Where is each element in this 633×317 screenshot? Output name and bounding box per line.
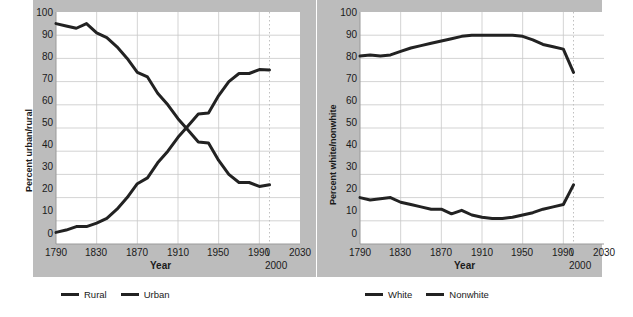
x-tick-1790-right: 1790: [343, 247, 377, 258]
x-axis-label-right: Year: [454, 260, 475, 271]
x-tick-2030-right: 2030: [587, 247, 621, 258]
y-tick-0-left: 0: [31, 228, 53, 239]
series-line-rural: [56, 24, 270, 187]
plot-area-right: [360, 12, 604, 244]
x-tick-1910-right: 1910: [465, 247, 499, 258]
legend-entry-nonwhite[interactable]: Nonwhite: [426, 290, 489, 300]
y-tick-70-left: 70: [31, 73, 53, 84]
legend-entry-white[interactable]: White: [365, 290, 412, 300]
y-tick-50-right: 50: [335, 117, 357, 128]
x-tick-1870-left: 1870: [120, 247, 154, 258]
x-axis-label-left: Year: [150, 260, 171, 271]
y-tick-40-left: 40: [31, 139, 53, 150]
legend-label-rural: Rural: [84, 290, 107, 300]
y-tick-100-left: 100: [31, 7, 53, 18]
chart-panel-white-nonwhite: Percent white/nonwhite 100 90 80 70 60 5…: [317, 0, 633, 317]
x-tick-1790-left: 1790: [39, 247, 73, 258]
legend-label-urban: Urban: [144, 290, 170, 300]
data-lines-left: [56, 12, 300, 244]
y-tick-60-right: 60: [335, 95, 357, 106]
x-tick-1830-left: 1830: [79, 247, 113, 258]
legend-right: White Nonwhite: [365, 290, 489, 300]
y-tick-90-left: 90: [31, 29, 53, 40]
legend-swatch-nonwhite: [426, 293, 444, 296]
series-line-white: [360, 35, 574, 72]
data-lines-right: [360, 12, 604, 244]
x-tick-1950-right: 1950: [505, 247, 539, 258]
y-tick-60-left: 60: [31, 95, 53, 106]
plot-area-left: [56, 12, 300, 244]
x-tick-1950-left: 1950: [201, 247, 235, 258]
figure-page: Percent urban/rural 100 90 80 70 60 50 4…: [0, 0, 633, 317]
y-tick-80-right: 80: [335, 51, 357, 62]
x-tick-1830-right: 1830: [383, 247, 417, 258]
y-tick-30-right: 30: [335, 161, 357, 172]
y-tick-10-right: 10: [335, 205, 357, 216]
x-tick-1910-left: 1910: [161, 247, 195, 258]
x-tick-2030-left: 2030: [283, 247, 317, 258]
x-tick-1990-left: 1990: [242, 247, 276, 258]
y-tick-20-left: 20: [31, 183, 53, 194]
series-line-nonwhite: [360, 185, 574, 219]
y-tick-100-right: 100: [335, 7, 357, 18]
y-tick-90-right: 90: [335, 29, 357, 40]
legend-entry-rural[interactable]: Rural: [61, 290, 107, 300]
y-tick-10-left: 10: [31, 205, 53, 216]
chart-panel-urban-rural: Percent urban/rural 100 90 80 70 60 50 4…: [0, 0, 316, 317]
legend-swatch-white: [365, 293, 383, 296]
legend-swatch-rural: [61, 293, 79, 296]
legend-swatch-urban: [121, 293, 139, 296]
y-tick-50-left: 50: [31, 117, 53, 128]
callout-pointer-left: \: [266, 246, 269, 258]
callout-year-2000-left: 2000: [265, 260, 287, 271]
callout-year-2000-right: 2000: [569, 260, 591, 271]
series-line-urban: [56, 70, 270, 233]
x-tick-1990-right: 1990: [546, 247, 580, 258]
x-tick-1870-right: 1870: [424, 247, 458, 258]
y-tick-0-right: 0: [335, 228, 357, 239]
y-tick-40-right: 40: [335, 139, 357, 150]
legend-left: Rural Urban: [61, 290, 170, 300]
y-tick-80-left: 80: [31, 51, 53, 62]
legend-entry-urban[interactable]: Urban: [121, 290, 170, 300]
y-tick-20-right: 20: [335, 183, 357, 194]
y-tick-70-right: 70: [335, 73, 357, 84]
callout-pointer-right: \: [570, 246, 573, 258]
legend-label-nonwhite: Nonwhite: [449, 290, 489, 300]
y-tick-30-left: 30: [31, 161, 53, 172]
legend-label-white: White: [388, 290, 412, 300]
